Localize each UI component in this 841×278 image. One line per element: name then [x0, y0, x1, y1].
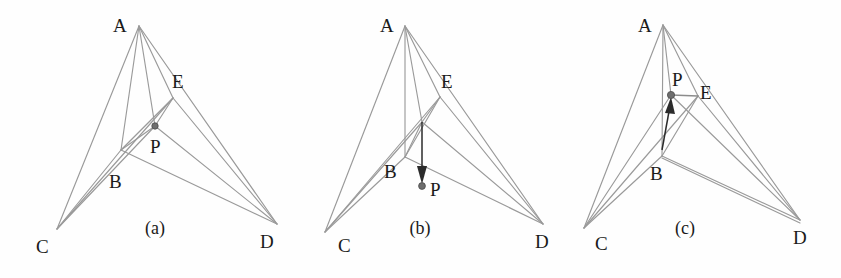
- figure-container: A B C D E P (a): [0, 0, 841, 278]
- vertex-label-c-C: C: [595, 233, 608, 254]
- vertex-label-c-P: P: [672, 69, 683, 90]
- edge-c-ac: [584, 25, 663, 228]
- panel-c: A B C D E P (c): [0, 0, 841, 278]
- edge-c-bd: [662, 156, 800, 220]
- arrow-head-c: [665, 97, 675, 114]
- edge-c-be: [662, 96, 698, 156]
- edge-c-ed: [698, 96, 800, 220]
- panel-caption-c: (c): [675, 218, 695, 239]
- vertex-label-c-D: D: [793, 227, 807, 248]
- edge-c-pe: [671, 95, 698, 96]
- vertex-label-c-B: B: [650, 163, 663, 184]
- vertex-label-c-E: E: [700, 82, 712, 103]
- edge-c-pd: [671, 95, 800, 220]
- panel-c-edges: [584, 25, 800, 228]
- edge-c-ce: [584, 96, 698, 228]
- vertex-label-c-A: A: [638, 15, 652, 36]
- point-p-marker-c: [667, 91, 674, 98]
